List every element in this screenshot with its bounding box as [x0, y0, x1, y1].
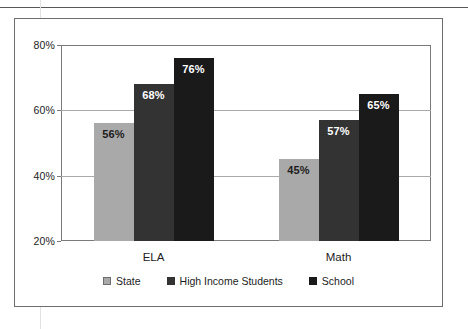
legend-item[interactable]: School	[309, 275, 354, 287]
chart-frame: 20%40%60%80% 56%68%76%45%57%65% ELAMath …	[14, 18, 443, 307]
plot-wrapper: 20%40%60%80% 56%68%76%45%57%65% ELAMath	[61, 45, 431, 241]
bar-value-label: 56%	[94, 128, 134, 140]
page-top-rule	[0, 7, 468, 8]
bar: 68%	[134, 84, 174, 241]
bar-value-label: 45%	[279, 164, 319, 176]
x-tick-label: ELA	[143, 251, 165, 263]
legend-item[interactable]: High Income Students	[167, 275, 283, 287]
legend-label: High Income Students	[180, 275, 283, 287]
bar-value-label: 57%	[319, 125, 359, 137]
chart-legend: StateHigh Income StudentsSchool	[15, 275, 442, 287]
legend-swatch-icon	[309, 277, 317, 285]
chart-page: 20%40%60%80% 56%68%76%45%57%65% ELAMath …	[0, 0, 468, 329]
bar: 76%	[174, 58, 214, 241]
y-tick-label: 80%	[33, 39, 55, 51]
y-tick-label: 60%	[33, 104, 55, 116]
bar-value-label: 65%	[359, 99, 399, 111]
bar-value-label: 68%	[134, 89, 174, 101]
legend-swatch-icon	[167, 277, 175, 285]
bar-value-label: 76%	[174, 63, 214, 75]
legend-item[interactable]: State	[103, 275, 141, 287]
bar: 57%	[319, 120, 359, 241]
x-tick-label: Math	[326, 251, 352, 263]
bar: 65%	[359, 94, 399, 241]
bar-series-layer: 56%68%76%45%57%65%	[61, 45, 431, 241]
bar: 56%	[94, 123, 134, 241]
y-tick-label: 20%	[33, 235, 55, 247]
legend-label: State	[116, 275, 141, 287]
y-tick-label: 40%	[33, 170, 55, 182]
legend-label: School	[322, 275, 354, 287]
legend-swatch-icon	[103, 277, 111, 285]
bar: 45%	[279, 159, 319, 241]
y-tick-mark	[57, 241, 61, 242]
